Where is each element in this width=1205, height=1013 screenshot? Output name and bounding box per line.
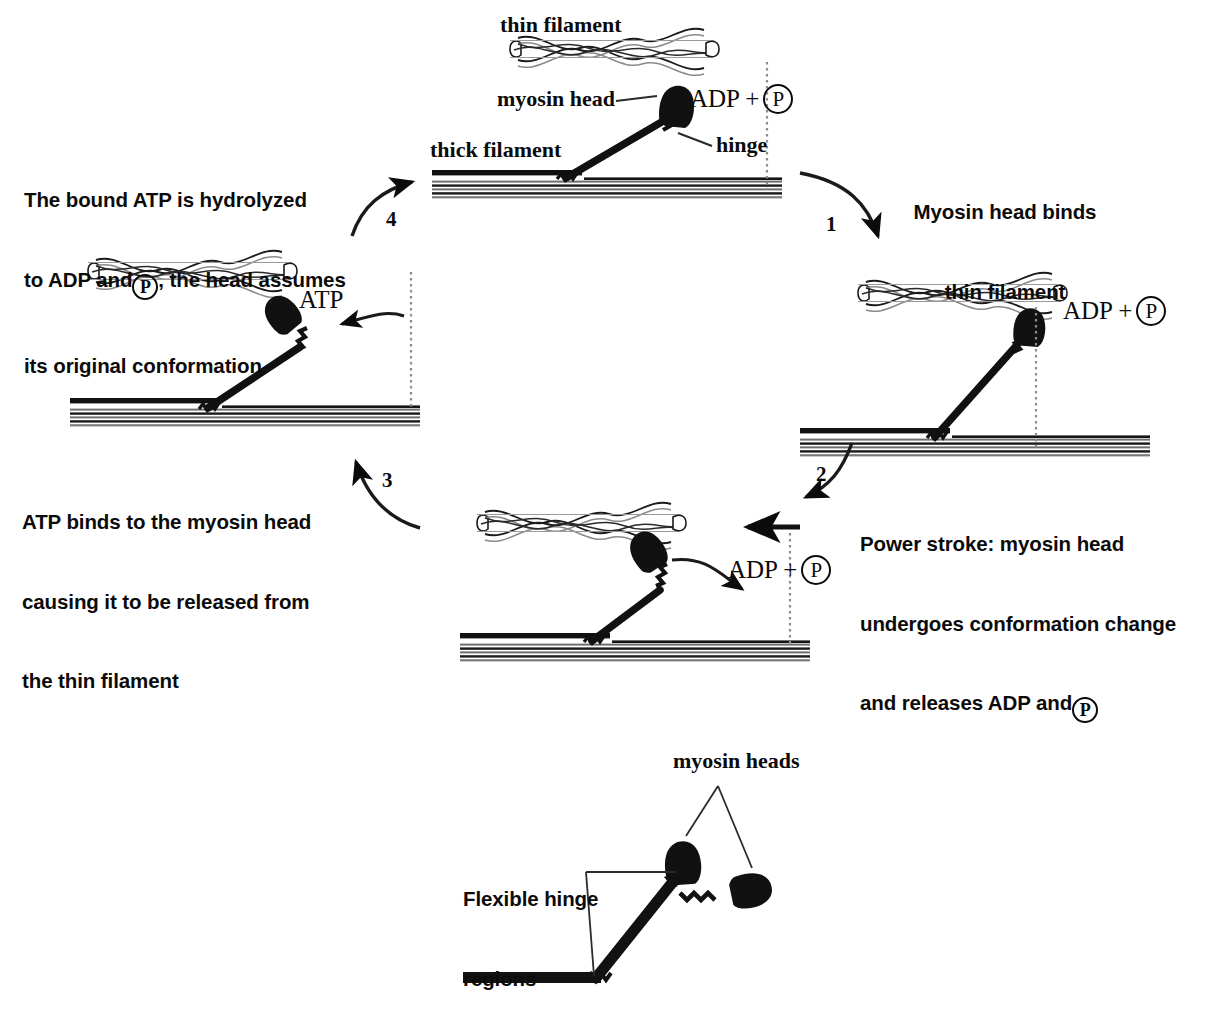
adp-text: ADP + (690, 85, 759, 113)
myosin-head-label: myosin head (497, 86, 615, 112)
state2-adp-phosphate-label: ADP + P (728, 555, 831, 585)
step-1-number: 1 (826, 212, 837, 237)
phosphate-icon: P (763, 84, 793, 114)
step-1-caption: Myosin head binds thin filament (855, 146, 1155, 358)
phosphate-icon: P (1136, 296, 1166, 326)
step-4-number: 4 (386, 207, 397, 232)
flexible-hinge-label: Flexible hinge regions (463, 833, 703, 1013)
thin-filament-label: thin filament (500, 12, 622, 38)
figure-canvas: thin filament myosin head thick filament… (0, 0, 1205, 1013)
step-2-number: 2 (816, 462, 827, 487)
step-4-caption: The bound ATP is hydrolyzed to ADP andP,… (24, 134, 404, 432)
adp-text: ADP + (728, 556, 797, 584)
hinge-label: hinge (716, 132, 767, 158)
step-3-number: 3 (382, 468, 393, 493)
thick-filament-label: thick filament (430, 137, 561, 163)
phosphate-icon: P (132, 274, 158, 300)
myosin-heads-label: myosin heads (673, 748, 800, 774)
step-2-caption: Power stroke: myosin head undergoes conf… (860, 478, 1200, 776)
phosphate-icon: P (801, 555, 831, 585)
state1-adp-phosphate-label: ADP + P (1063, 296, 1166, 326)
phosphate-icon: P (1072, 697, 1098, 723)
top-adp-phosphate-label: ADP + P (690, 84, 793, 114)
step-3-caption: ATP binds to the myosin head causing it … (22, 456, 372, 748)
adp-text: ADP + (1063, 297, 1132, 325)
